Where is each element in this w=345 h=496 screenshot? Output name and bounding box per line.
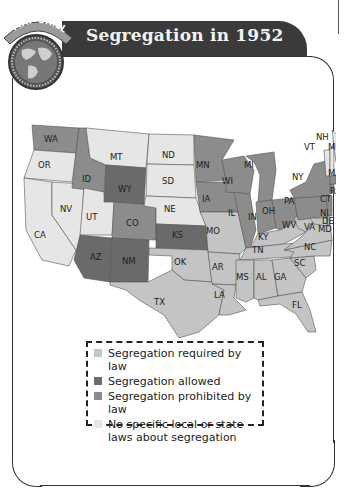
legend-label: No specific local or state laws about se… <box>108 418 256 444</box>
legend-label: Segregation allowed <box>108 375 220 388</box>
svg-text:SC: SC <box>294 258 305 268</box>
svg-text:MA: MA <box>328 168 336 178</box>
svg-text:WA: WA <box>44 134 58 144</box>
svg-text:AZ: AZ <box>90 252 102 262</box>
swatch-none-icon <box>94 420 102 428</box>
svg-text:MI: MI <box>244 160 254 170</box>
svg-text:UT: UT <box>86 212 98 222</box>
svg-text:MS: MS <box>236 272 249 282</box>
svg-text:ME: ME <box>328 142 336 152</box>
svg-text:OR: OR <box>38 160 51 170</box>
svg-text:RI: RI <box>330 186 336 196</box>
svg-text:OK: OK <box>174 257 187 267</box>
svg-text:MN: MN <box>196 160 210 170</box>
svg-text:TN: TN <box>251 245 264 255</box>
svg-text:CA: CA <box>34 230 46 240</box>
svg-text:WV: WV <box>282 220 296 230</box>
svg-text:NV: NV <box>60 204 72 214</box>
legend-item-none: No specific local or state laws about se… <box>94 418 256 444</box>
svg-text:WI: WI <box>222 176 233 186</box>
svg-text:OH: OH <box>262 206 275 216</box>
svg-text:NE: NE <box>164 204 176 214</box>
svg-text:WY: WY <box>118 184 132 194</box>
page-margin-line <box>338 0 339 34</box>
svg-text:SD: SD <box>162 176 174 186</box>
svg-text:AR: AR <box>212 262 224 272</box>
svg-text:LA: LA <box>214 290 225 300</box>
globe-icon <box>9 35 63 89</box>
svg-text:IL: IL <box>228 208 236 218</box>
svg-text:KS: KS <box>172 230 183 240</box>
card-border-bottom <box>40 485 310 486</box>
svg-text:IA: IA <box>202 194 211 204</box>
svg-text:FL: FL <box>292 300 302 310</box>
svg-text:MD: MD <box>318 224 332 234</box>
state-FL <box>258 292 316 332</box>
svg-text:GA: GA <box>274 272 287 282</box>
swatch-allowed-icon <box>94 377 102 385</box>
map-legend: Segregation required by law Segregation … <box>86 341 264 426</box>
us-map: WA OR CA NV ID MT WY UT CO AZ NM ND SD N… <box>14 120 336 340</box>
svg-text:NM: NM <box>122 256 136 266</box>
card-border-corner <box>12 440 42 487</box>
card-border-corner <box>290 56 334 100</box>
svg-text:TX: TX <box>153 297 165 307</box>
svg-text:VT: VT <box>304 142 316 152</box>
svg-text:MT: MT <box>110 152 123 162</box>
svg-text:ID: ID <box>82 174 92 184</box>
svg-text:CO: CO <box>126 218 139 228</box>
card-border-left <box>12 78 13 458</box>
svg-text:NC: NC <box>304 242 316 252</box>
svg-text:NH: NH <box>316 132 329 142</box>
svg-text:IN: IN <box>248 212 257 222</box>
svg-text:KY: KY <box>258 232 269 242</box>
legend-label: Segregation required by law <box>108 347 256 373</box>
svg-text:PA: PA <box>284 196 295 206</box>
swatch-prohibited-icon <box>94 392 102 400</box>
card-border-corner <box>300 440 335 487</box>
svg-text:ND: ND <box>162 150 175 160</box>
svg-text:VA: VA <box>304 222 315 232</box>
legend-item-allowed: Segregation allowed <box>94 375 256 388</box>
card-border-top <box>60 56 312 57</box>
map-title: Segregation in 1952 <box>86 25 283 45</box>
svg-text:AL: AL <box>256 272 267 282</box>
svg-text:NY: NY <box>292 172 304 182</box>
swatch-required-icon <box>94 349 102 357</box>
legend-item-prohibited: Segregation prohibited by law <box>94 390 256 416</box>
svg-text:MO: MO <box>206 226 220 236</box>
legend-item-required: Segregation required by law <box>94 347 256 373</box>
map-skill-badge: MAP SKILL <box>2 8 74 92</box>
legend-label: Segregation prohibited by law <box>108 390 256 416</box>
